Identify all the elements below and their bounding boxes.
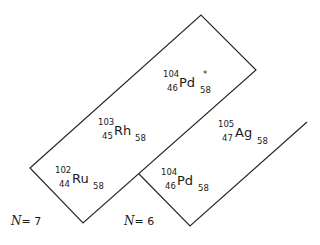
atomic-number: 45 [102,132,113,141]
neutron-number: 58 [200,86,211,95]
mass-number: 102 [55,166,71,175]
element-symbol: Ru [72,172,89,185]
group-label-n6: N= 6 [124,214,154,228]
neutron-number: 58 [198,184,209,193]
atomic-number: 44 [59,180,70,189]
group-label-n7: N= 7 [11,214,41,228]
mass-number: 104 [161,168,177,177]
mass-number: 105 [218,120,234,129]
atomic-number: 46 [167,84,178,93]
script-n-symbol: N [124,214,135,228]
script-n-symbol: N [11,214,22,228]
neutron-number: 58 [257,137,268,146]
group-value: = 7 [22,215,42,228]
element-symbol: Rh [114,124,131,137]
element-symbol: Pd [177,174,193,187]
neutron-number: 58 [135,134,146,143]
atomic-number: 47 [222,134,233,143]
neutron-number: 58 [93,182,104,191]
element-symbol: Pd [179,76,195,89]
element-symbol: Ag [235,126,252,139]
group-value: = 6 [135,215,155,228]
nuclide-diagram: 104 46 Pd * 58 103 45 Rh 58 102 44 Ru 58… [0,0,320,245]
atomic-number: 46 [165,182,176,191]
group-boundaries [0,0,320,245]
excited-mark: * [203,70,207,79]
mass-number: 103 [98,118,114,127]
mass-number: 104 [163,70,179,79]
